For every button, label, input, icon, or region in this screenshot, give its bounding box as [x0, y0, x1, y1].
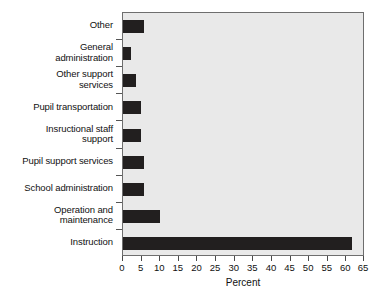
value-axis-tick — [215, 256, 216, 261]
value-axis-tick — [178, 256, 179, 261]
bar — [123, 74, 136, 87]
category-label-line: maintenance — [1, 215, 113, 226]
value-axis: 05101520253035404550556065 Percent — [122, 256, 364, 290]
category-label: Other supportservices — [1, 69, 113, 90]
value-axis-tick — [327, 256, 328, 261]
category-label: Instruction — [1, 237, 113, 248]
category-label: Generaladministration — [1, 42, 113, 63]
plot-area — [122, 12, 364, 256]
category-label-line: administration — [1, 53, 113, 64]
bar — [123, 156, 144, 169]
bar — [123, 101, 141, 114]
horizontal-bar-chart: OtherGeneraladministrationOther supports… — [0, 0, 378, 291]
category-axis-labels: OtherGeneraladministrationOther supports… — [0, 12, 118, 256]
value-axis-tick — [196, 256, 197, 261]
value-axis-tick — [345, 256, 346, 261]
value-axis-tick-label: 65 — [352, 262, 374, 273]
value-axis-tick — [290, 256, 291, 261]
category-label: Other — [1, 20, 113, 31]
value-axis-tick — [363, 256, 364, 261]
category-label: Insructional staffsupport — [1, 124, 113, 145]
category-label-line: Instruction — [1, 237, 113, 248]
bar — [123, 20, 144, 33]
bar — [123, 237, 352, 250]
value-axis-tick — [234, 256, 235, 261]
category-label: Operation andmaintenance — [1, 205, 113, 226]
category-label: Pupil support services — [1, 156, 113, 167]
value-axis-tick — [141, 256, 142, 261]
value-axis-tick — [252, 256, 253, 261]
category-label-line: Other — [1, 20, 113, 31]
value-axis-tick — [122, 256, 123, 261]
category-label-line: services — [1, 80, 113, 91]
value-axis-tick — [159, 256, 160, 261]
bar — [123, 47, 131, 60]
category-label: School administration — [1, 183, 113, 194]
bar — [123, 210, 160, 223]
category-label: Pupil transportation — [1, 102, 113, 113]
category-label-line: Pupil support services — [1, 156, 113, 167]
bar — [123, 129, 141, 142]
category-label-line: Pupil transportation — [1, 102, 113, 113]
x-axis-title: Percent — [122, 277, 364, 288]
value-axis-tick — [308, 256, 309, 261]
bar — [123, 183, 144, 196]
category-label-line: support — [1, 134, 113, 145]
category-label-line: School administration — [1, 183, 113, 194]
value-axis-tick — [271, 256, 272, 261]
